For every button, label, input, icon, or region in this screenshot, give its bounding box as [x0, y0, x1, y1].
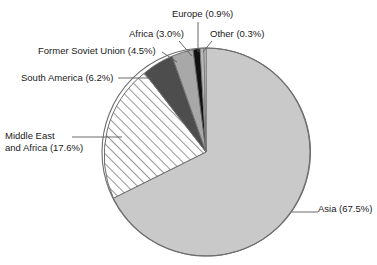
- slice-label-middle-east-line2: and Africa (17.6%): [5, 142, 83, 154]
- pie-chart-figure: Europe (0.9%) Other (0.3%) Africa (3.0%)…: [0, 0, 377, 265]
- slice-label-south-america: South America (6.2%): [21, 72, 113, 84]
- slice-label-middle-east-and-africa: Middle East and Africa (17.6%): [5, 130, 83, 154]
- slice-label-africa: Africa (3.0%): [129, 28, 184, 40]
- slice-label-europe: Europe (0.9%): [172, 8, 233, 20]
- slice-label-middle-east-line1: Middle East: [5, 130, 83, 142]
- slice-label-former-soviet-union: Former Soviet Union (4.5%): [38, 45, 156, 57]
- slice-label-asia: Asia (67.5%): [318, 203, 372, 215]
- slice-label-other: Other (0.3%): [210, 28, 264, 40]
